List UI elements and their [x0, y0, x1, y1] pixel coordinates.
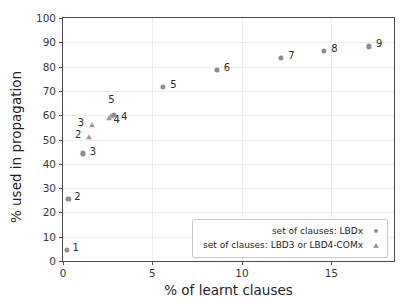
data-point-label: 6	[224, 62, 230, 73]
data-point-circle-9	[366, 44, 371, 49]
y-axis-tick-label: 60	[43, 109, 56, 121]
y-axis-tick-label: 90	[43, 36, 56, 48]
data-point-label: 4	[121, 111, 127, 122]
legend-triangle-icon	[371, 243, 381, 248]
data-point-circle-6	[214, 67, 219, 72]
legend-entry-lbd3-lbd4comx: set of clauses: LBD3 or LBD4-COMx	[199, 238, 381, 252]
gridline-horizontal	[63, 140, 394, 141]
x-axis-title: % of learnt clauses	[62, 282, 395, 298]
gridline-vertical	[152, 18, 153, 261]
x-axis-tick-label: 10	[235, 267, 248, 279]
data-point-label: 3	[90, 146, 96, 157]
gridline-horizontal	[63, 188, 394, 189]
y-axis-tick	[59, 237, 63, 238]
data-point-triangle-5	[108, 113, 114, 118]
y-axis-tick	[59, 42, 63, 43]
y-axis-tick	[59, 115, 63, 116]
y-axis-tick-label: 10	[43, 231, 56, 243]
y-axis-tick	[59, 212, 63, 213]
chart-legend: set of clauses: LBDx set of clauses: LBD…	[192, 219, 388, 258]
y-axis-tick-label: 0	[49, 255, 56, 267]
gridline-horizontal	[63, 42, 394, 43]
y-axis-tick-label: 80	[43, 61, 56, 73]
data-point-label: 9	[376, 38, 382, 49]
data-point-label: 2	[75, 129, 81, 140]
legend-circle-icon	[371, 229, 381, 234]
x-axis-tick-label: 0	[60, 267, 67, 279]
data-point-circle-3	[80, 151, 85, 156]
data-point-triangle-3	[89, 123, 95, 128]
y-axis-tick-label: 100	[36, 12, 56, 24]
data-point-label: 2	[74, 191, 80, 202]
y-axis-tick	[59, 188, 63, 189]
y-axis-tick-label: 40	[43, 158, 56, 170]
scatter-chart-figure: 0102030405060708090100051015123456789234…	[0, 0, 411, 306]
legend-label-lbd3-lbd4comx: set of clauses: LBD3 or LBD4-COMx	[203, 240, 363, 250]
gridline-horizontal	[63, 212, 394, 213]
x-axis-tick	[152, 261, 153, 265]
x-axis-tick	[63, 261, 64, 265]
y-axis-tick-label: 50	[43, 134, 56, 146]
data-point-label: 3	[78, 117, 84, 128]
y-axis-tick	[59, 18, 63, 19]
x-axis-tick	[331, 261, 332, 265]
data-point-label: 7	[288, 50, 294, 61]
data-point-label: 5	[108, 94, 114, 105]
y-axis-tick	[59, 164, 63, 165]
y-axis-title: % used in propagation	[8, 47, 24, 247]
gridline-horizontal	[63, 164, 394, 165]
x-axis-tick-label: 5	[149, 267, 156, 279]
data-point-circle-1	[64, 247, 69, 252]
data-point-label: 5	[170, 79, 176, 90]
data-point-circle-7	[279, 56, 284, 61]
gridline-horizontal	[63, 91, 394, 92]
legend-entry-lbdx: set of clauses: LBDx	[199, 224, 381, 238]
y-axis-tick	[59, 140, 63, 141]
data-point-triangle-2	[86, 134, 92, 139]
x-axis-tick	[242, 261, 243, 265]
y-axis-tick	[59, 67, 63, 68]
data-point-circle-8	[322, 49, 327, 54]
data-point-label: 8	[331, 43, 337, 54]
y-axis-tick-label: 30	[43, 182, 56, 194]
data-point-label: 4	[114, 114, 120, 125]
x-axis-tick-label: 15	[325, 267, 338, 279]
y-axis-tick	[59, 91, 63, 92]
data-point-circle-5	[161, 85, 166, 90]
y-axis-tick-label: 70	[43, 85, 56, 97]
data-point-label: 1	[73, 242, 79, 253]
legend-label-lbdx: set of clauses: LBDx	[272, 226, 363, 236]
y-axis-tick-label: 20	[43, 206, 56, 218]
data-point-circle-2	[66, 196, 71, 201]
